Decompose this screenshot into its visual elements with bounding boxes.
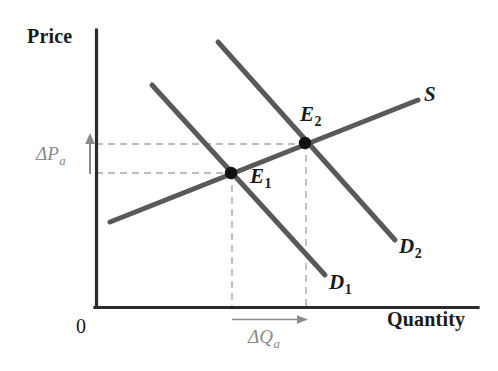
- supply-curve: [110, 100, 418, 222]
- price-change-label-text: ΔP: [36, 143, 59, 164]
- quantity-change-label: ΔQa: [248, 327, 280, 350]
- guide-lines: [96, 143, 306, 307]
- equilibrium-label-e2: E2: [300, 104, 322, 129]
- curves: [110, 42, 418, 275]
- equilibrium-label-e2-text: E: [300, 102, 314, 126]
- x-axis-title: Quantity: [387, 309, 465, 329]
- demand-2-curve-label-text: D: [399, 234, 414, 258]
- supply-curve-label-text: S: [424, 82, 436, 106]
- delta-arrows: [85, 133, 308, 324]
- equilibrium-point-e1: [225, 167, 237, 179]
- equilibrium-point-e2: [299, 137, 311, 149]
- equilibrium-label-e1-text: E: [250, 164, 264, 188]
- equilibrium-label-e1-subscript: 1: [265, 176, 272, 191]
- demand-1-curve-label-subscript: 1: [345, 282, 352, 297]
- y-axis-title: Price: [27, 26, 72, 46]
- price-change-label-subscript: a: [59, 153, 66, 168]
- origin-label: 0: [76, 316, 86, 336]
- quantity-change-label-text: ΔQ: [248, 326, 273, 347]
- equilibrium-label-e1: E1: [250, 166, 272, 191]
- demand-2-curve-label: D2: [399, 236, 422, 261]
- figure-canvas: Price Quantity 0 S D1 D2 E1 E2 ΔPa ΔQa: [0, 0, 498, 371]
- demand-1-curve-label-text: D: [329, 270, 344, 294]
- quantity-change-arrow-head: [297, 315, 308, 323]
- price-change-arrow-head: [85, 133, 95, 144]
- axes: [95, 30, 478, 308]
- demand-1-curve-label: D1: [329, 272, 352, 297]
- demand-2-curve-label-subscript: 2: [415, 246, 422, 261]
- price-change-label: ΔPa: [36, 144, 66, 167]
- equilibrium-label-e2-subscript: 2: [315, 114, 322, 129]
- quantity-change-label-subscript: a: [273, 336, 280, 351]
- supply-curve-label: S: [424, 84, 436, 105]
